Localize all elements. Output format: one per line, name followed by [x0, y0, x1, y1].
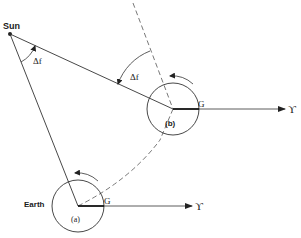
earth-label: Earth	[24, 200, 45, 209]
position-label-a: (a)	[71, 215, 80, 224]
greenwich-label-b: G	[198, 99, 205, 109]
orbital-diagram: Sun Δf Δf G (b) ϒ G (a) Earth ϒ	[0, 0, 301, 238]
angle-label-sun: Δf	[33, 56, 42, 66]
vernal-equinox-label-b: ϒ	[288, 103, 297, 115]
vernal-equinox-label-a: ϒ	[195, 200, 204, 212]
sun-label: Sun	[3, 21, 20, 31]
position-label-b: (b)	[165, 119, 176, 128]
sun-to-earth-line	[10, 34, 78, 206]
angle-label-b: Δf	[130, 72, 139, 82]
sun-to-b-line	[10, 34, 173, 109]
dashed-orbit-arc	[78, 140, 160, 206]
greenwich-label-a: G	[104, 196, 111, 206]
